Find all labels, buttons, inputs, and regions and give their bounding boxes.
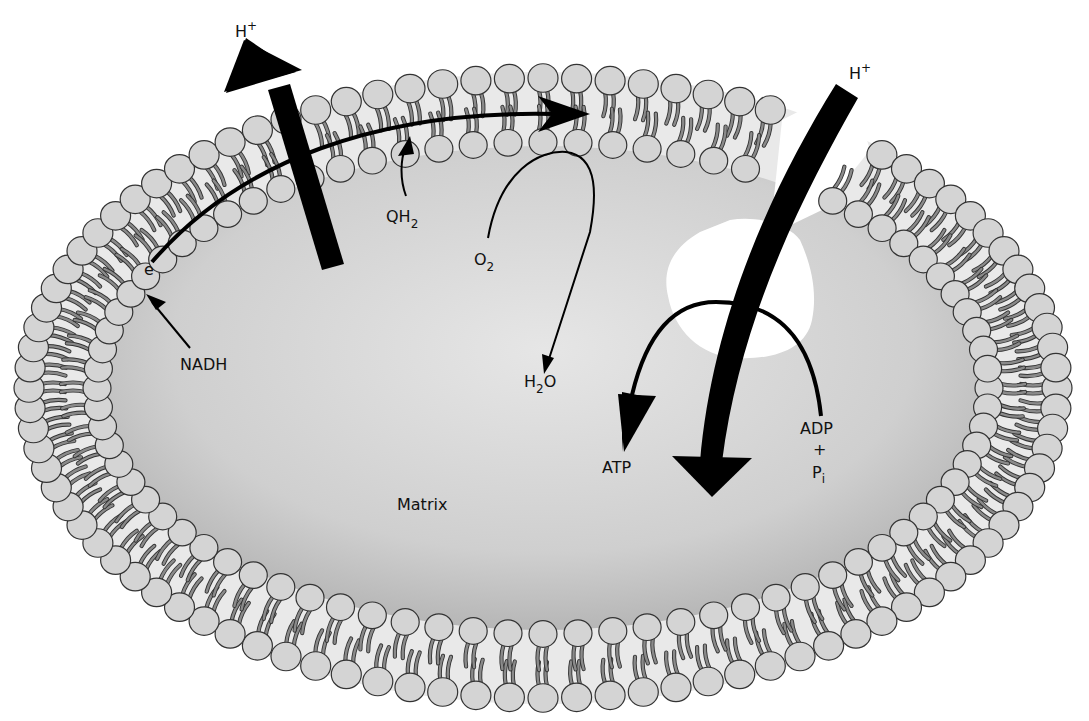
lipid-head <box>327 156 355 183</box>
label-h-plus-left: H+ <box>235 19 257 41</box>
label-nadh: NADH <box>180 355 227 374</box>
lipid-head <box>242 116 272 145</box>
lipid-head <box>633 136 661 163</box>
lipid-head <box>267 574 295 601</box>
lipid-head <box>814 632 844 661</box>
lipid-head <box>785 642 815 671</box>
lipid-head <box>732 594 760 621</box>
lipid-head <box>331 660 361 689</box>
lipid-head <box>700 147 728 174</box>
lipid-head <box>819 188 847 215</box>
lipid-head <box>595 66 625 95</box>
lipid-head <box>562 64 592 93</box>
lipid-head <box>301 96 331 125</box>
lipid-head <box>358 602 386 629</box>
lipid-head <box>428 678 458 707</box>
lipid-head <box>215 620 245 649</box>
label-matrix: Matrix <box>397 495 447 514</box>
lipid-head <box>841 620 871 649</box>
lipid-head <box>529 621 557 648</box>
lipid-head <box>494 130 522 157</box>
lipid-head <box>528 684 558 713</box>
lipid-head <box>267 176 295 203</box>
label-adp: ADP <box>800 419 833 438</box>
lipid-head <box>562 683 592 712</box>
lipid-head <box>529 129 557 156</box>
lipid-head <box>425 136 453 163</box>
lipid-head <box>700 602 728 629</box>
lipid-head <box>667 141 695 168</box>
lipid-head <box>459 132 487 159</box>
lipid-head <box>599 618 627 645</box>
lipid-head <box>599 132 627 159</box>
lipid-head <box>395 74 425 103</box>
lipid-head <box>301 652 331 681</box>
lipid-head <box>693 667 723 696</box>
lipid-head <box>867 607 897 636</box>
lipid-head <box>693 80 723 109</box>
label-electron: e <box>144 260 154 279</box>
lipid-head <box>791 574 819 601</box>
lipid-head <box>271 642 301 671</box>
lipid-head <box>395 673 425 702</box>
lipid-head <box>461 66 491 95</box>
lipid-head <box>461 681 491 710</box>
lipid-head <box>725 660 755 689</box>
label-plus: + <box>813 440 826 459</box>
lipid-head <box>755 96 785 125</box>
lipid-head <box>214 549 242 576</box>
lipid-head <box>239 188 267 215</box>
lipid-head <box>732 156 760 183</box>
lipid-head <box>363 667 393 696</box>
lipid-head <box>331 87 361 116</box>
lipid-head <box>628 70 658 99</box>
lipid-head <box>363 80 393 109</box>
lipid-head <box>494 64 524 93</box>
lipid-head <box>661 74 691 103</box>
lipid-head <box>819 562 847 589</box>
mitochondrion-diagram: H+ H+ e NADH QH2 O2 H2O ATP ADP + Pi Mat… <box>0 0 1089 721</box>
lipid-head <box>974 355 1002 382</box>
lipid-head <box>459 618 487 645</box>
lipid-head <box>564 620 592 647</box>
lipid-head <box>755 652 785 681</box>
lipid-head <box>494 683 524 712</box>
lipid-head <box>844 549 872 576</box>
lipid-head <box>215 128 245 157</box>
lipid-head <box>528 64 558 93</box>
lipid-head <box>1041 353 1071 382</box>
lipid-head <box>868 535 896 562</box>
lipid-head <box>358 147 386 174</box>
lipid-head <box>667 609 695 636</box>
lipid-head <box>189 141 219 170</box>
lipid-head <box>428 70 458 99</box>
lipid-head <box>425 614 453 641</box>
lipid-head <box>327 594 355 621</box>
lipid-head <box>628 678 658 707</box>
lipid-head <box>661 673 691 702</box>
lipid-head <box>296 584 324 611</box>
lipid-head <box>844 201 872 228</box>
label-atp: ATP <box>602 458 631 477</box>
label-h-plus-right: H+ <box>849 61 871 83</box>
lipid-head <box>391 609 419 636</box>
lipid-head <box>239 562 267 589</box>
lipid-head <box>595 681 625 710</box>
lipid-head <box>762 584 790 611</box>
lipid-head <box>242 632 272 661</box>
lipid-head <box>494 620 522 647</box>
lipid-head <box>725 87 755 116</box>
lipid-head <box>214 201 242 228</box>
lipid-head <box>633 614 661 641</box>
